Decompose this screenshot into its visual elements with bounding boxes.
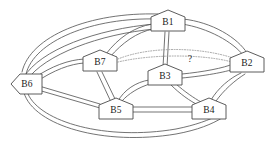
- edge-b3-b5-a: [118, 80, 149, 101]
- node-b3-label: B3: [159, 71, 170, 81]
- edge-b7-b2-dotted-lower: [118, 56, 232, 62]
- node-b6-label: B6: [21, 79, 32, 89]
- node-b2-label: B2: [241, 58, 252, 68]
- edge-b3-b2-a: [182, 64, 233, 74]
- node-b4[interactable]: B4: [192, 98, 226, 119]
- edge-b1-b2-a: [183, 19, 247, 53]
- node-b7[interactable]: B7: [83, 50, 117, 71]
- edge-b6-b5-a: [39, 86, 100, 104]
- node-b2[interactable]: B2: [230, 51, 264, 72]
- edge-b3-b5-b: [122, 84, 150, 101]
- node-b4-label: B4: [203, 105, 214, 115]
- node-b5-label: B5: [110, 105, 121, 115]
- edge-b7-b1-b: [110, 29, 153, 57]
- annotation-layer: ?: [188, 53, 193, 64]
- edge-layer-dotted: [118, 50, 233, 63]
- edge-b6-b5-b: [38, 90, 100, 108]
- node-b1[interactable]: B1: [151, 10, 185, 31]
- node-b6[interactable]: B6: [11, 74, 42, 94]
- diagram-canvas: B1 B2 B3 B4 B5: [0, 0, 273, 153]
- edge-b1-b2-b: [182, 24, 243, 55]
- network-graph-svg: B1 B2 B3 B4 B5: [0, 0, 273, 153]
- edge-b3-b4-a: [171, 85, 198, 105]
- node-b7-label: B7: [94, 57, 105, 67]
- unknown-link-label: ?: [188, 53, 193, 64]
- node-b1-label: B1: [162, 17, 173, 27]
- node-b3[interactable]: B3: [148, 64, 182, 85]
- edge-b4-b2-a: [211, 73, 241, 100]
- edge-b7-b2-dotted-upper: [118, 50, 233, 60]
- node-b5[interactable]: B5: [99, 98, 133, 119]
